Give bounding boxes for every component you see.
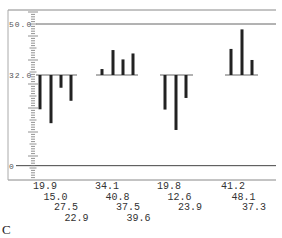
bar-group-3 (160, 75, 193, 130)
y-tick-label-50: 50.0 (9, 20, 32, 29)
value-label: 22.9 (65, 213, 89, 224)
panel-label: C (2, 222, 11, 237)
bar (164, 75, 167, 110)
bar (185, 75, 188, 98)
bar-group-4 (225, 29, 258, 75)
value-label: 40.8 (106, 192, 130, 203)
value-label: 19.8 (157, 181, 181, 192)
bar (60, 75, 63, 88)
y-axis-ruler (28, 12, 38, 178)
bar-group-1 (36, 75, 77, 123)
bar-groups (36, 29, 258, 130)
value-label: 23.9 (178, 202, 202, 213)
bar (175, 75, 178, 130)
bar (39, 75, 42, 109)
value-label: 27.5 (54, 202, 78, 213)
bar (251, 60, 254, 75)
value-label: 41.2 (221, 181, 245, 192)
bar (70, 75, 73, 101)
value-label: 39.6 (127, 213, 151, 224)
bar (112, 50, 115, 75)
bar (122, 59, 125, 75)
value-label: 34.1 (95, 181, 119, 192)
value-label: 37.3 (242, 202, 266, 213)
y-tick-label-0: 0 (9, 162, 15, 171)
bar (230, 49, 233, 75)
bar (241, 29, 244, 75)
value-label: 48.1 (232, 192, 256, 203)
chart-frame: 50.032.00 (8, 10, 276, 180)
value-label: 19.9 (33, 181, 57, 192)
bar (101, 69, 104, 75)
bar (132, 53, 135, 75)
value-label: 12.6 (168, 192, 192, 203)
value-labels: 19.915.027.522.934.140.837.539.619.812.6… (33, 181, 266, 224)
bar-chart: 50.032.00 19.915.027.522.934.140.837.539… (0, 0, 282, 238)
value-label: 37.5 (116, 202, 140, 213)
y-tick-label-32: 32.0 (9, 71, 32, 80)
bar (50, 75, 53, 123)
value-label: 15.0 (44, 192, 68, 203)
bar-group-2 (96, 50, 138, 75)
